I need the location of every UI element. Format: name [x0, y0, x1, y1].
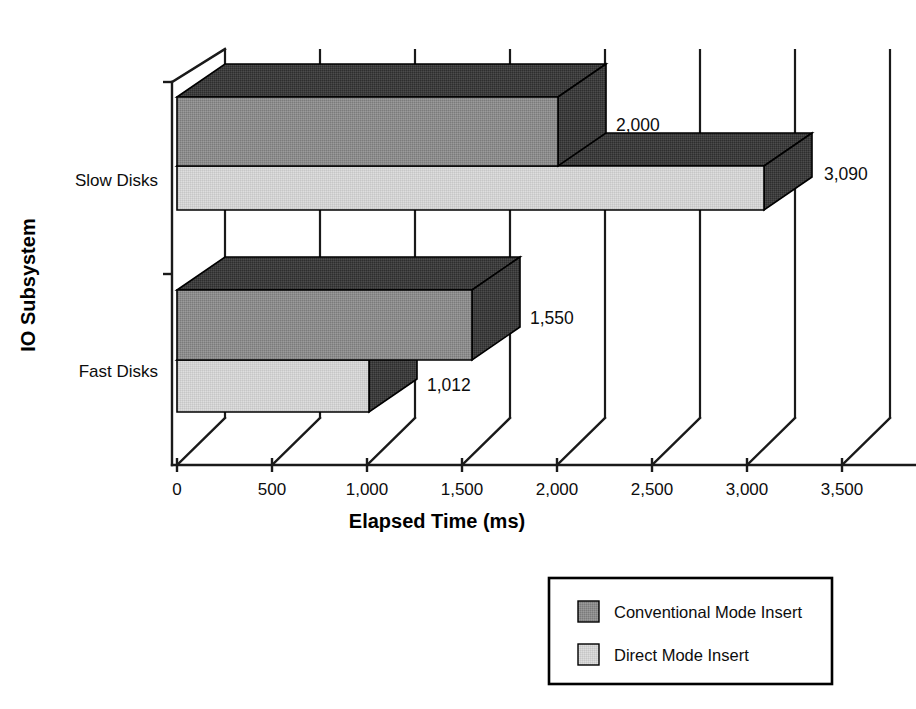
- x-tick-label-3000: 3,000: [726, 480, 769, 499]
- value-label-slow-direct: 3,090: [824, 164, 868, 184]
- legend-swatch-direct: [578, 644, 599, 665]
- bar-slow-conventional: [177, 64, 606, 166]
- legend-label-conventional: Conventional Mode Insert: [614, 603, 802, 621]
- x-tick-label-500: 500: [258, 480, 286, 499]
- x-tick-label-3500: 3,500: [821, 480, 864, 499]
- bar-top-face: [177, 64, 606, 97]
- floor-depth-0: [177, 418, 225, 465]
- category-label-fast-disks: Fast Disks: [79, 362, 158, 381]
- bar-front-face: [177, 360, 369, 412]
- floor-depth-500: [272, 418, 320, 465]
- bar-front-face: [177, 97, 558, 166]
- floor-depth-1500: [462, 418, 510, 465]
- category-label-slow-disks: Slow Disks: [75, 171, 158, 190]
- legend-box: [549, 578, 832, 684]
- floor-depth-3500: [842, 418, 890, 465]
- chart-canvas: 2,000 3,090 1,550 1,012 Slow Disks Fast …: [0, 0, 916, 709]
- x-tick-label-1000: 1,000: [346, 480, 389, 499]
- bar-front-face: [177, 290, 472, 360]
- bar-fast-conventional: [177, 257, 520, 360]
- value-label-fast-conventional: 1,550: [530, 308, 574, 328]
- floor-depth-2000: [557, 418, 605, 465]
- bar-front-face: [177, 166, 764, 210]
- bar-top-face: [177, 257, 520, 290]
- legend-label-direct: Direct Mode Insert: [614, 646, 749, 664]
- floor-depth-1000: [367, 418, 415, 465]
- floor-depth-3000: [747, 418, 795, 465]
- legend-swatch-conventional: [578, 601, 599, 622]
- value-label-fast-direct: 1,012: [427, 375, 471, 395]
- x-tick-label-2500: 2,500: [631, 480, 674, 499]
- x-axis-title: Elapsed Time (ms): [349, 510, 525, 532]
- x-tick-label-1500: 1,500: [441, 480, 484, 499]
- x-tick-label-0: 0: [172, 480, 181, 499]
- y-axis-title: IO Subsystem: [17, 218, 39, 351]
- x-tick-label-2000: 2,000: [536, 480, 579, 499]
- bar-chart: 2,000 3,090 1,550 1,012 Slow Disks Fast …: [0, 0, 916, 709]
- floor-depth-2500: [652, 418, 700, 465]
- value-label-slow-conventional: 2,000: [616, 115, 660, 135]
- legend: Conventional Mode Insert Direct Mode Ins…: [549, 578, 832, 684]
